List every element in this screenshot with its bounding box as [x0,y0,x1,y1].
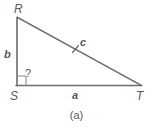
vertex-label-r: R [14,3,23,15]
side-c-line [18,18,142,86]
figure-caption: (a) [0,110,153,121]
side-label-a: a [72,90,78,101]
vertex-label-t: T [136,90,143,102]
geometry-figure: R S T b a c ? (a) [0,0,153,131]
vertex-label-s: S [10,90,18,102]
side-label-b: b [4,49,11,60]
side-label-c: c [80,37,86,48]
angle-label-unknown: ? [25,68,31,79]
